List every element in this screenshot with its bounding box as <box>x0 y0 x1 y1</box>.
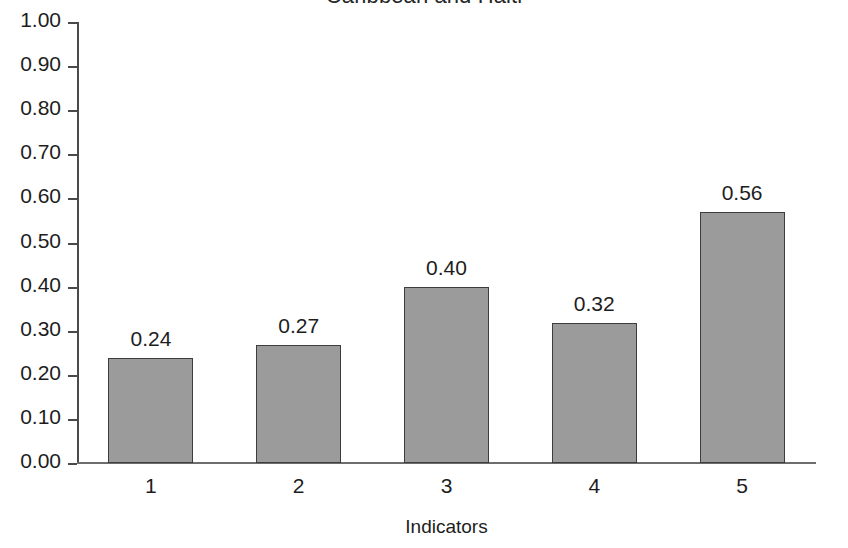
y-axis-tick-label: 0.90 <box>20 53 61 75</box>
bar <box>256 345 341 463</box>
plot-area: 0.240.270.400.320.56 <box>77 22 816 463</box>
x-axis-tick-label: 3 <box>407 474 487 498</box>
y-axis-tick-label: 0.30 <box>20 318 61 340</box>
y-axis-tick-mark <box>68 331 77 333</box>
x-axis-tick-label: 2 <box>259 474 339 498</box>
y-axis-tick-mark <box>68 66 77 68</box>
bar-value-label: 0.27 <box>278 315 319 337</box>
bar-group: 0.32 <box>552 22 637 463</box>
y-axis-tick-mark <box>68 110 77 112</box>
y-axis-tick-mark <box>68 22 77 24</box>
bar-group: 0.56 <box>700 22 785 463</box>
bar <box>552 323 637 463</box>
y-axis-tick-mark <box>68 463 77 465</box>
y-axis-tick-label: 0.00 <box>20 450 61 472</box>
x-axis-tick-label: 4 <box>554 474 634 498</box>
y-axis-tick-label: 0.80 <box>20 97 61 119</box>
bar-value-label: 0.24 <box>130 328 171 350</box>
x-axis-tick-label: 5 <box>702 474 782 498</box>
bar-value-label: 0.56 <box>722 182 763 204</box>
bar-value-label: 0.32 <box>574 293 615 315</box>
bar-group: 0.24 <box>108 22 193 463</box>
y-axis-tick-mark <box>68 375 77 377</box>
y-axis-tick-mark <box>68 154 77 156</box>
y-axis-tick-label: 1.00 <box>20 9 61 31</box>
y-axis-tick-label: 0.60 <box>20 185 61 207</box>
x-axis-tick-label: 1 <box>111 474 191 498</box>
bar-chart: Caribbean and Haiti 1.000.900.800.700.60… <box>0 0 848 548</box>
y-axis-tick-label: 0.50 <box>20 230 61 252</box>
y-axis-tick-label: 0.70 <box>20 141 61 163</box>
bar-group: 0.27 <box>256 22 341 463</box>
y-axis-tick-mark <box>68 198 77 200</box>
y-axis-tick-mark <box>68 243 77 245</box>
y-axis-tick-label: 0.10 <box>20 406 61 428</box>
bar <box>404 287 489 463</box>
y-axis-tick-mark <box>68 287 77 289</box>
x-axis-title: Indicators <box>77 516 816 538</box>
bar <box>700 212 785 463</box>
y-axis-tick-mark <box>68 419 77 421</box>
chart-title: Caribbean and Haiti <box>0 0 848 9</box>
y-axis-tick-label: 0.20 <box>20 362 61 384</box>
y-axis-tick-label: 0.40 <box>20 274 61 296</box>
bar <box>108 358 193 463</box>
bar-value-label: 0.40 <box>426 257 467 279</box>
bar-group: 0.40 <box>404 22 489 463</box>
